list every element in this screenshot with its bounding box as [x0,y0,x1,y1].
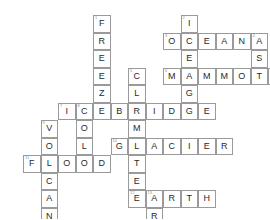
crossword-cell[interactable]: I [181,138,199,156]
clue-number: 5 [130,69,132,73]
cell-letter: M [203,72,211,81]
cell-letter: N [46,212,53,219]
cell-letter: A [186,72,192,81]
cell-letter: O [81,159,88,168]
crossword-cell[interactable]: M [198,68,216,86]
crossword-cell[interactable]: 2I [181,15,199,33]
cell-letter: E [99,107,105,116]
cell-letter: G [186,89,193,98]
cell-letter: I [188,19,191,28]
crossword-cell[interactable]: S [251,50,269,68]
crossword-cell[interactable]: T [181,190,199,208]
crossword-cell[interactable]: E [198,138,216,156]
crossword-cell[interactable]: O [58,155,76,173]
cell-letter: O [168,37,175,46]
clue-number: 8 [78,104,80,108]
crossword-cell[interactable]: Z [93,85,111,103]
clue-number: 7 [60,104,62,108]
crossword-cell[interactable]: N [233,33,251,51]
cell-letter: O [238,72,245,81]
cell-letter: D [169,107,176,116]
crossword-grid: 1F2IR3OCEAN4AEESE5C6MAMMOTHZLG7I8CEBRIDG… [0,0,270,219]
crossword-cell[interactable]: 5C [128,68,146,86]
cell-letter: F [29,159,35,168]
crossword-cell[interactable]: R [93,33,111,51]
crossword-cell[interactable]: M [128,120,146,138]
crossword-cell[interactable]: I [146,103,164,121]
cell-letter: O [46,142,53,151]
cell-letter: D [99,159,106,168]
crossword-cell[interactable]: 10G [111,138,129,156]
cell-letter: L [47,159,52,168]
crossword-cell[interactable]: C [41,173,59,191]
crossword-cell[interactable]: C [181,33,199,51]
crossword-cell[interactable]: E [128,173,146,191]
cell-letter: E [134,194,140,203]
crossword-cell[interactable]: E [93,68,111,86]
cell-letter: C [81,107,88,116]
cell-letter: I [153,107,156,116]
cell-letter: L [134,142,139,151]
cell-letter: F [99,19,105,28]
crossword-cell[interactable]: A [41,190,59,208]
cell-letter: S [256,54,262,63]
crossword-cell[interactable]: 11F [23,155,41,173]
crossword-cell[interactable]: E [198,103,216,121]
crossword-cell[interactable]: H [198,190,216,208]
crossword-cell[interactable]: R [128,103,146,121]
crossword-cell[interactable]: R [146,208,164,220]
crossword-cell[interactable]: R [216,138,234,156]
crossword-cell[interactable]: 6M [163,68,181,86]
crossword-cell[interactable]: O [41,138,59,156]
crossword-cell[interactable]: L [41,155,59,173]
cell-letter: G [186,107,193,116]
crossword-cell[interactable]: O [76,120,94,138]
crossword-cell[interactable]: A [216,33,234,51]
crossword-cell[interactable]: 3O [163,33,181,51]
crossword-cell[interactable]: A [181,68,199,86]
crossword-cell[interactable]: T [128,155,146,173]
crossword-cell[interactable]: E [93,103,111,121]
crossword-cell[interactable]: C [163,138,181,156]
crossword-cell[interactable]: R [163,190,181,208]
crossword-cell[interactable]: D [93,155,111,173]
cell-letter: C [169,142,176,151]
cell-letter: E [204,142,210,151]
clue-number: 10 [113,139,117,143]
cell-letter: E [186,54,192,63]
crossword-cell[interactable]: 1F [93,15,111,33]
cell-letter: G [116,142,123,151]
crossword-cell[interactable]: 9V [41,120,59,138]
clue-number: 3 [165,34,167,38]
cell-letter: T [187,194,193,203]
cell-letter: O [81,124,88,133]
crossword-cell[interactable]: O [233,68,251,86]
crossword-cell[interactable]: B [111,103,129,121]
crossword-cell[interactable]: E [93,50,111,68]
crossword-cell[interactable]: E [198,33,216,51]
crossword-cell[interactable]: L [128,138,146,156]
crossword-cell[interactable]: G [181,85,199,103]
crossword-cell[interactable]: 7I [58,103,76,121]
cell-letter: R [221,142,228,151]
clue-number: 4 [253,34,255,38]
crossword-cell[interactable]: H [268,68,270,86]
crossword-cell[interactable]: D [163,103,181,121]
crossword-cell[interactable]: G [181,103,199,121]
crossword-cell[interactable]: N [41,208,59,220]
crossword-cell[interactable]: O [76,155,94,173]
crossword-cell[interactable]: 12E [128,190,146,208]
crossword-cell[interactable]: 13A [146,190,164,208]
crossword-cell[interactable]: E [181,50,199,68]
cell-letter: L [82,142,87,151]
cell-letter: A [221,37,227,46]
crossword-cell[interactable]: 8C [76,103,94,121]
crossword-cell[interactable]: L [128,85,146,103]
crossword-cell[interactable]: 4A [251,33,269,51]
crossword-cell[interactable]: L [76,138,94,156]
crossword-cell[interactable]: T [251,68,269,86]
cell-letter: I [65,107,68,116]
crossword-cell[interactable]: A [146,138,164,156]
crossword-cell[interactable]: M [216,68,234,86]
cell-letter: E [134,177,140,186]
